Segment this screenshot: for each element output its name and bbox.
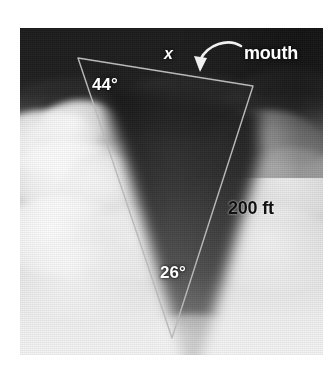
label-known-side-200-ft: 200 ft bbox=[228, 199, 274, 217]
tornado-photograph bbox=[20, 28, 323, 355]
label-angle-top-left: 44° bbox=[92, 76, 118, 93]
label-unknown-side-x: x bbox=[164, 46, 173, 62]
label-mouth-callout: mouth bbox=[244, 44, 298, 62]
label-angle-bottom: 26° bbox=[160, 264, 186, 281]
figure-root: x mouth 44° 26° 200 ft bbox=[0, 0, 336, 370]
